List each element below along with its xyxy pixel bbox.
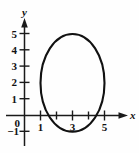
x-axis-label: x	[129, 109, 136, 121]
y-tick-label-minus-1: −1	[7, 125, 19, 137]
ellipse-plot: 1 3 5 5 4 3 2 1 0 −1 y x	[0, 0, 139, 153]
x-tick-label-3: 3	[70, 121, 76, 133]
y-tick-label-2: 2	[12, 76, 18, 88]
x-tick-label-5: 5	[102, 121, 108, 133]
x-axis-arrow-icon	[119, 112, 129, 119]
figure-container: 1 3 5 5 4 3 2 1 0 −1 y x	[0, 0, 139, 153]
y-axis-arrow-icon	[21, 18, 28, 28]
y-tick-label-1: 1	[12, 93, 18, 105]
x-tick-label-1: 1	[38, 121, 44, 133]
y-tick-label-3: 3	[12, 60, 18, 72]
y-tick-label-4: 4	[12, 44, 18, 56]
y-tick-label-5: 5	[12, 28, 18, 40]
y-axis-label: y	[20, 6, 27, 18]
